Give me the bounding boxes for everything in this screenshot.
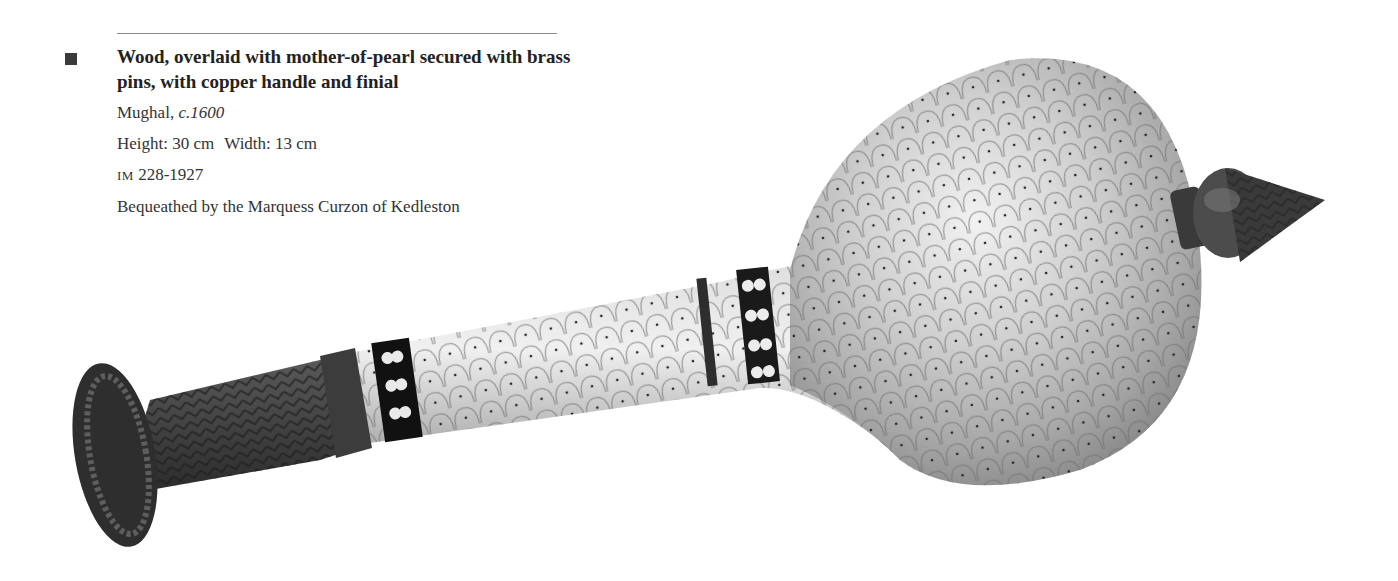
- mace-image: [0, 0, 1398, 581]
